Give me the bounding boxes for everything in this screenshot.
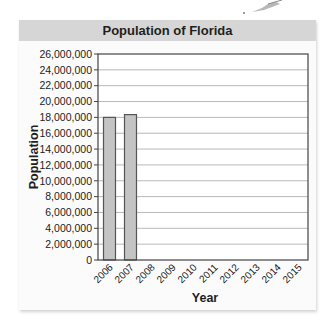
y-tick-label: 20,000,000 — [39, 95, 92, 107]
y-tick-label: 4,000,000 — [45, 222, 92, 234]
x-tick-label: 2012 — [217, 261, 241, 285]
x-tick-label: 2014 — [259, 261, 283, 285]
y-axis-ticks: 02,000,0004,000,0006,000,0008,000,00010,… — [39, 48, 98, 266]
chart-panel: Population of Florida 02,000,0004,000,00… — [19, 20, 316, 310]
y-tick-label: 26,000,000 — [39, 48, 92, 60]
x-tick-label: 2007 — [112, 261, 136, 285]
bar-2006 — [104, 117, 116, 260]
pencil-sketch-decoration — [238, 0, 288, 16]
x-axis-label: Year — [192, 291, 219, 305]
bar-chart: 02,000,0004,000,0006,000,0008,000,00010,… — [19, 20, 316, 310]
x-tick-label: 2013 — [238, 261, 262, 285]
y-tick-label: 2,000,000 — [45, 238, 92, 250]
y-tick-label: 14,000,000 — [39, 143, 92, 155]
x-tick-label: 2010 — [175, 261, 199, 285]
x-tick-label: 2015 — [280, 261, 304, 285]
y-tick-label: 24,000,000 — [39, 64, 92, 76]
y-tick-label: 22,000,000 — [39, 79, 92, 91]
y-tick-label: 10,000,000 — [39, 175, 92, 187]
bar-2007 — [125, 115, 137, 260]
x-tick-label: 2009 — [154, 261, 178, 285]
y-tick-label: 0 — [86, 254, 92, 266]
x-tick-label: 2011 — [197, 261, 220, 284]
x-tick-label: 2008 — [133, 261, 157, 285]
x-tick-label: 2006 — [91, 261, 115, 285]
y-tick-label: 6,000,000 — [45, 206, 92, 218]
y-axis-label: Population — [27, 125, 41, 190]
y-tick-label: 16,000,000 — [39, 127, 92, 139]
x-axis-ticks: 2006200720082009201020112012201320142015 — [91, 261, 304, 285]
y-tick-label: 18,000,000 — [39, 111, 92, 123]
y-tick-label: 12,000,000 — [39, 159, 92, 171]
y-tick-label: 8,000,000 — [45, 190, 92, 202]
